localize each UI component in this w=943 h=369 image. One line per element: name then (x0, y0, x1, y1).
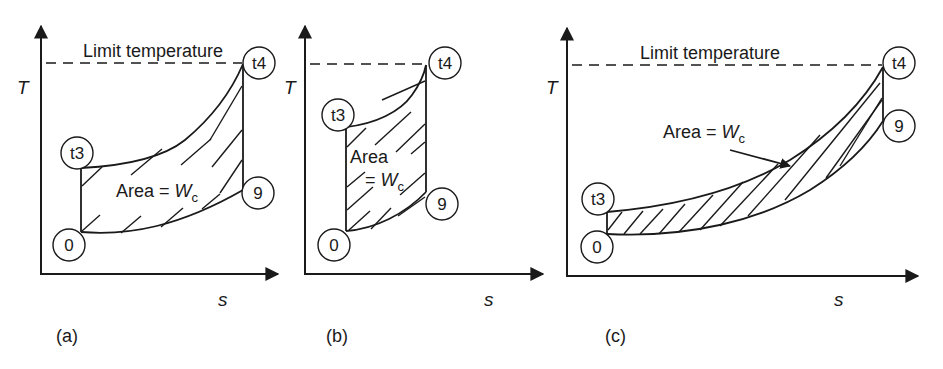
svg-text:0: 0 (329, 236, 338, 255)
svg-text:9: 9 (437, 195, 446, 214)
panel-label-c: (c) (605, 326, 626, 346)
x-axis-label-c: s (834, 289, 844, 310)
svg-text:9: 9 (253, 184, 262, 203)
area-label-b-line1: Area (350, 147, 389, 167)
state-point-t4-a: t4 (243, 47, 275, 79)
svg-text:0: 0 (64, 236, 73, 255)
state-point-t4-b: t4 (429, 47, 461, 79)
y-axis-label-a: T (17, 77, 30, 98)
limit-temperature-label-c: Limit temperature (640, 43, 780, 63)
area-label-c: Area = Wc (663, 122, 746, 146)
svg-text:t4: t4 (252, 54, 266, 73)
panel-a: T s Limit temperature Area = Wc t3 (17, 26, 278, 346)
state-point-9-c: 9 (883, 110, 915, 142)
area-pointer-arrow-c (730, 150, 790, 166)
x-axis-label-b: s (484, 289, 494, 310)
area-label-a: Area = Wc (116, 181, 199, 205)
panel-c: T s Limit temperature Area = Wc t3 (546, 28, 918, 346)
state-point-0-a: 0 (53, 229, 85, 261)
svg-text:t3: t3 (331, 106, 345, 125)
upper-isobar-a (81, 64, 243, 168)
panel-label-b: (b) (326, 326, 348, 346)
hatch-area-a (82, 86, 242, 233)
svg-text:t4: t4 (438, 54, 452, 73)
state-point-9-b: 9 (426, 188, 458, 220)
area-label-b-line2: = Wc (365, 170, 405, 194)
state-point-t3-a: t3 (61, 137, 93, 169)
svg-text:t3: t3 (591, 190, 605, 209)
svg-text:t3: t3 (70, 144, 84, 163)
state-point-t4-c: t4 (883, 47, 915, 79)
svg-text:0: 0 (592, 238, 601, 257)
y-axis-label-c: T (546, 77, 559, 98)
x-axis-label-a: s (218, 289, 228, 310)
y-axis-label-b: T (284, 77, 297, 98)
ts-diagram-figure: T s Limit temperature Area = Wc t3 (0, 0, 943, 369)
svg-text:9: 9 (894, 117, 903, 136)
panel-b: T s Area = Wc t3 t (284, 26, 543, 346)
panel-label-a: (a) (56, 326, 78, 346)
state-point-9-a: 9 (242, 177, 274, 209)
upper-isobar-b (346, 65, 426, 127)
limit-temperature-label-a: Limit temperature (83, 41, 223, 61)
svg-text:t4: t4 (892, 54, 906, 73)
state-point-t3-c: t3 (582, 183, 614, 215)
state-point-0-c: 0 (581, 231, 613, 263)
lower-isobar-b (346, 192, 426, 231)
hatch-area-c (608, 83, 882, 234)
state-point-0-b: 0 (318, 229, 350, 261)
state-point-t3-b: t3 (322, 99, 354, 131)
